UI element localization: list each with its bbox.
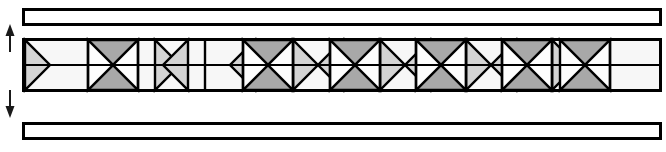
top-flange-bar (24, 10, 661, 25)
truss-beam-svg (0, 0, 666, 152)
arrow-down-icon (6, 106, 15, 118)
bottom-flange-bar (24, 124, 661, 139)
arrow-up-icon (6, 24, 15, 36)
truss-beam-figure (0, 0, 666, 152)
